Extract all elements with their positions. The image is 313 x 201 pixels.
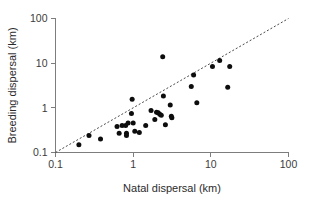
data-point bbox=[160, 54, 165, 59]
data-point bbox=[126, 120, 131, 125]
scatter-plot-figure: 0.11101000.1110100Natal dispersal (km)Br… bbox=[0, 0, 313, 201]
data-point bbox=[76, 142, 81, 147]
data-point bbox=[168, 103, 173, 108]
data-point bbox=[137, 130, 142, 135]
x-tick-label-2: 10 bbox=[205, 158, 217, 170]
data-point bbox=[124, 133, 129, 138]
x-tick-label-3: 100 bbox=[280, 158, 298, 170]
data-point bbox=[149, 108, 154, 113]
y-tick-label-2: 10 bbox=[36, 57, 48, 69]
data-point bbox=[217, 58, 222, 63]
data-point bbox=[87, 133, 92, 138]
data-point bbox=[189, 84, 194, 89]
y-axis-title: Breeding dispersal (km) bbox=[6, 27, 18, 143]
y-tick-label-0: 0.1 bbox=[33, 146, 48, 158]
data-point bbox=[169, 115, 174, 120]
data-point bbox=[194, 100, 199, 105]
x-axis-title: Natal dispersal (km) bbox=[123, 182, 221, 194]
data-point bbox=[117, 131, 122, 136]
data-point bbox=[163, 122, 168, 127]
data-point bbox=[129, 111, 134, 116]
data-point bbox=[159, 113, 164, 118]
data-point bbox=[98, 137, 103, 142]
x-tick-label-0: 0.1 bbox=[48, 158, 63, 170]
data-point bbox=[132, 129, 137, 134]
data-point bbox=[210, 64, 215, 69]
data-point bbox=[131, 120, 136, 125]
plot-canvas: 0.11101000.1110100Natal dispersal (km)Br… bbox=[0, 0, 313, 201]
data-point bbox=[191, 73, 196, 78]
data-point bbox=[152, 117, 157, 122]
x-tick-label-1: 1 bbox=[130, 158, 136, 170]
data-point bbox=[225, 85, 230, 90]
reference-line-one-to-one bbox=[56, 19, 289, 153]
data-point bbox=[143, 123, 148, 128]
data-point bbox=[161, 93, 166, 98]
data-point bbox=[115, 124, 120, 129]
y-tick-label-3: 100 bbox=[30, 12, 48, 24]
data-point bbox=[130, 97, 135, 102]
y-tick-label-1: 1 bbox=[42, 102, 48, 114]
data-point bbox=[227, 64, 232, 69]
